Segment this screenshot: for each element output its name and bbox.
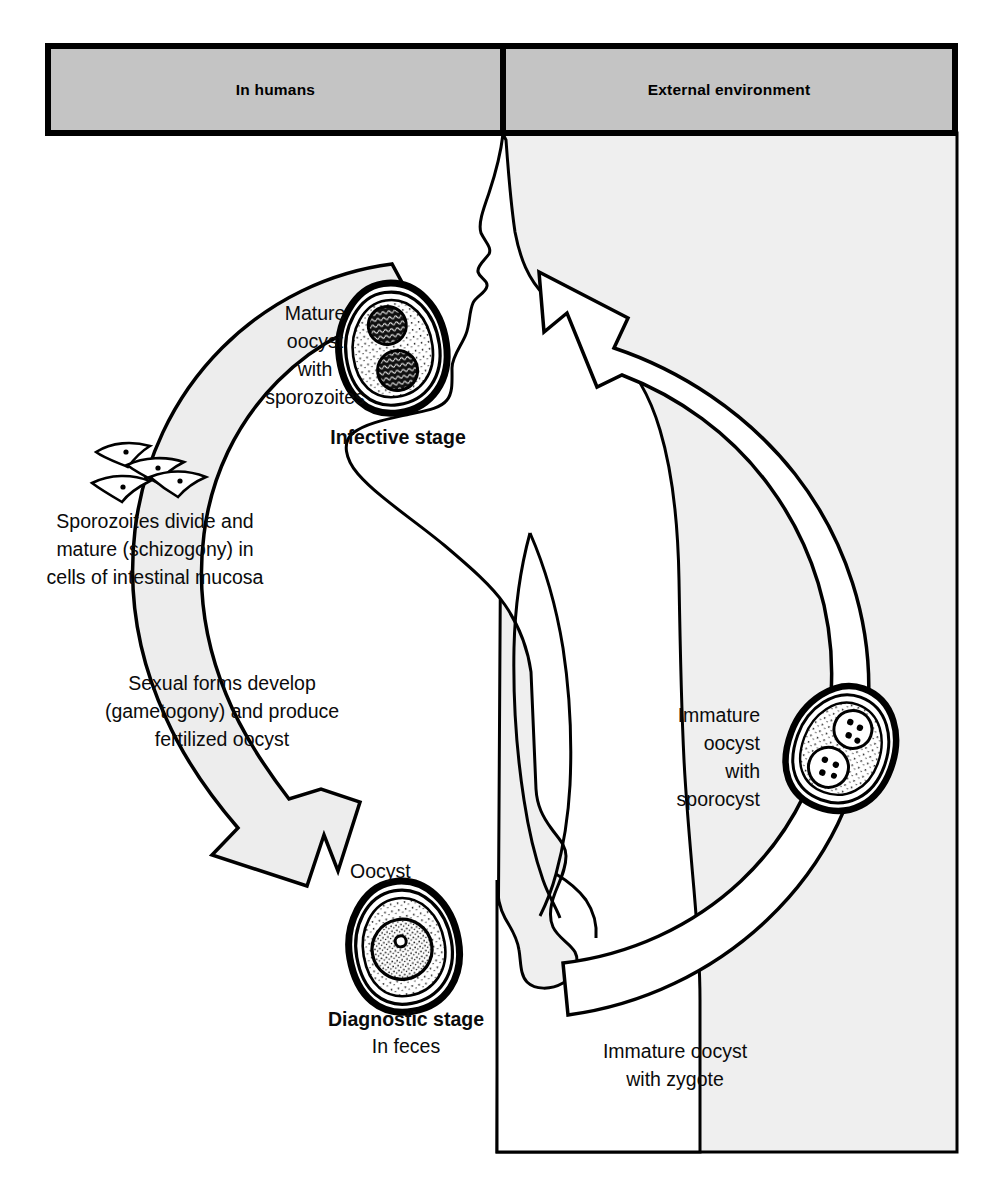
svg-text:with zygote: with zygote: [625, 1068, 724, 1090]
label-diagnostic-stage: Diagnostic stage: [328, 1008, 484, 1030]
label-oocyst: Oocyst: [350, 860, 411, 882]
svg-text:mature (schizogony) in: mature (schizogony) in: [56, 538, 253, 560]
banner-external-environment: [503, 46, 955, 133]
label-infective-stage: Infective stage: [330, 426, 466, 448]
svg-text:oocyst: oocyst: [287, 330, 344, 352]
svg-text:Sporozoites divide and: Sporozoites divide and: [56, 510, 253, 532]
svg-text:sporocyst: sporocyst: [677, 788, 761, 810]
svg-text:Immature: Immature: [678, 704, 760, 726]
life-cycle-diagram-page: Mature oocyst with sporozoites Infective…: [0, 0, 990, 1187]
label-in-feces: In feces: [372, 1035, 441, 1057]
svg-text:with: with: [724, 760, 760, 782]
svg-text:(gametogony) and produce: (gametogony) and produce: [105, 700, 339, 722]
svg-text:Immature oocyst: Immature oocyst: [603, 1040, 748, 1062]
svg-text:Mature: Mature: [285, 302, 346, 324]
svg-text:fertilized oocyst: fertilized oocyst: [155, 728, 290, 750]
svg-text:Sexual forms develop: Sexual forms develop: [128, 672, 316, 694]
life-cycle-figure: Mature oocyst with sporozoites Infective…: [0, 0, 990, 1187]
svg-text:cells of intestinal mucosa: cells of intestinal mucosa: [47, 566, 264, 588]
banner-in-humans: [48, 46, 503, 133]
label-gametogony: Sexual forms develop (gametogony) and pr…: [105, 672, 339, 750]
diagnostic-oocyst-illustration: [338, 872, 469, 1020]
svg-text:with: with: [297, 358, 333, 380]
svg-text:oocyst: oocyst: [704, 732, 761, 754]
label-schizogony: Sporozoites divide and mature (schizogon…: [47, 510, 264, 588]
svg-text:sporozoites: sporozoites: [265, 386, 365, 408]
